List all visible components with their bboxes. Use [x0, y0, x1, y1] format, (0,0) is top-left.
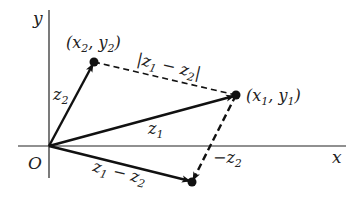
z1-minus-z2-label: z1 − z2: [89, 156, 148, 191]
y-axis-label: y: [32, 8, 43, 28]
z2-label: z2: [52, 85, 68, 107]
point-diff: [188, 178, 197, 187]
neg-z2-label: −z2: [213, 148, 242, 170]
origin-label: O: [28, 153, 42, 173]
neg-z2-dashed-vector: [193, 95, 236, 180]
point-p1-label: (x1, y1): [246, 86, 301, 108]
point-p1: [232, 91, 241, 100]
x-axis-label: x: [332, 147, 342, 167]
point-p2-label: (x2, y2): [66, 33, 121, 55]
point-p2: [90, 58, 99, 67]
z1-vector: [49, 96, 234, 146]
z1-label: z1: [147, 119, 163, 141]
complex-difference-diagram: y x O (x2, y2) (x1, y1) z2 z1 z1 − z2 −z…: [0, 0, 356, 203]
z2-vector: [49, 64, 93, 146]
distance-label: |z1 − z2|: [134, 49, 203, 85]
